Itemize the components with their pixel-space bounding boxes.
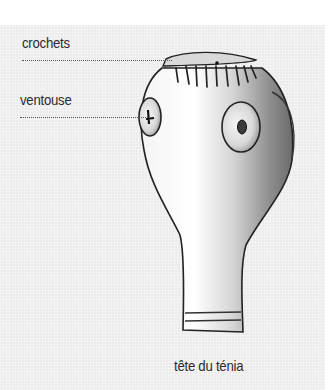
tapeworm-head-illustration <box>0 0 329 390</box>
leader-line-crochets <box>22 60 172 61</box>
leader-line-ventouse <box>20 117 150 118</box>
figure-caption: tête du ténia <box>174 357 243 374</box>
label-crochets: crochets <box>22 34 70 51</box>
ventouse-right <box>222 102 260 152</box>
label-ventouse: ventouse <box>20 91 71 108</box>
head-body <box>141 68 294 332</box>
